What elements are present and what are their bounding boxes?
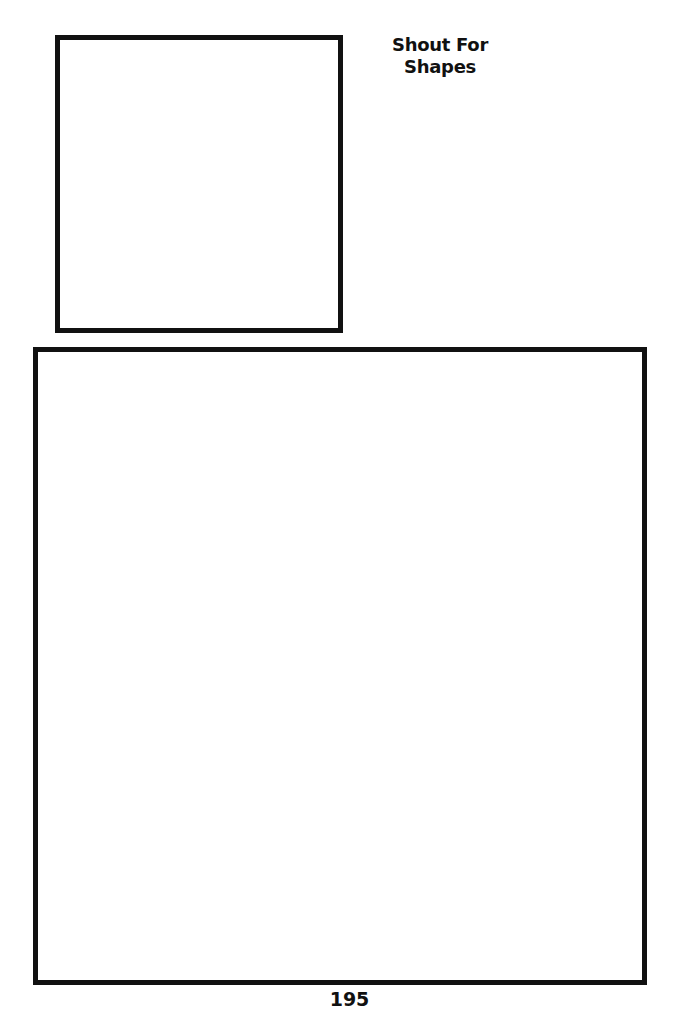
- large-drawing-box: [33, 347, 647, 985]
- title-line-1: Shout For: [380, 34, 500, 56]
- worksheet-title: Shout For Shapes: [380, 34, 500, 78]
- page-number: 195: [0, 988, 699, 1010]
- title-line-2: Shapes: [380, 56, 500, 78]
- small-drawing-box: [55, 35, 343, 333]
